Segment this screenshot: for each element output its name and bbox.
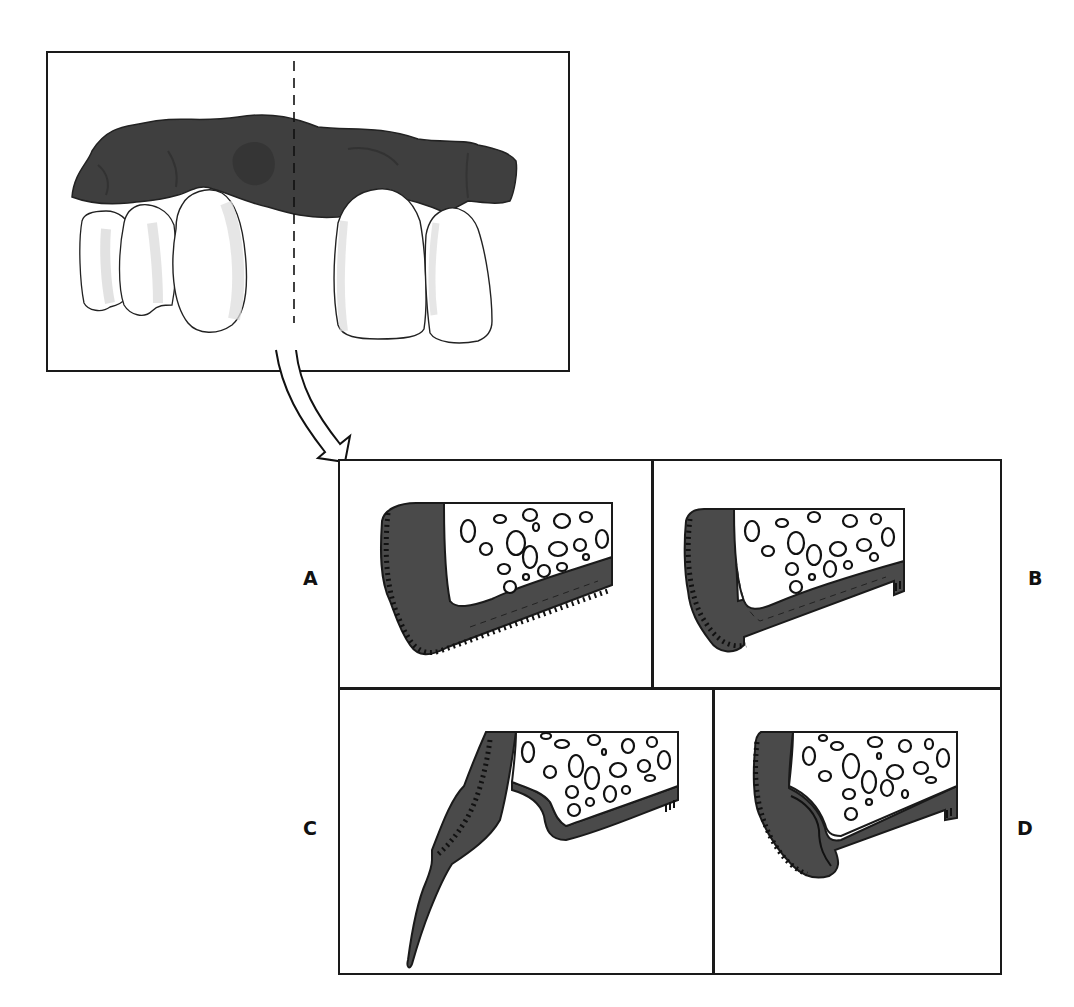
panel-label-c: C	[303, 817, 317, 839]
overview-frame	[46, 51, 570, 372]
panel-label-b: B	[1028, 567, 1042, 589]
panel-b	[654, 461, 1000, 687]
figure-caption	[0, 996, 1074, 1007]
panel-label-d: D	[1017, 817, 1033, 839]
panel-label-a: A	[303, 567, 318, 589]
panel-d	[715, 690, 1000, 973]
teeth-illustration	[48, 53, 572, 374]
panel-c	[340, 690, 712, 973]
panel-a	[340, 461, 651, 687]
